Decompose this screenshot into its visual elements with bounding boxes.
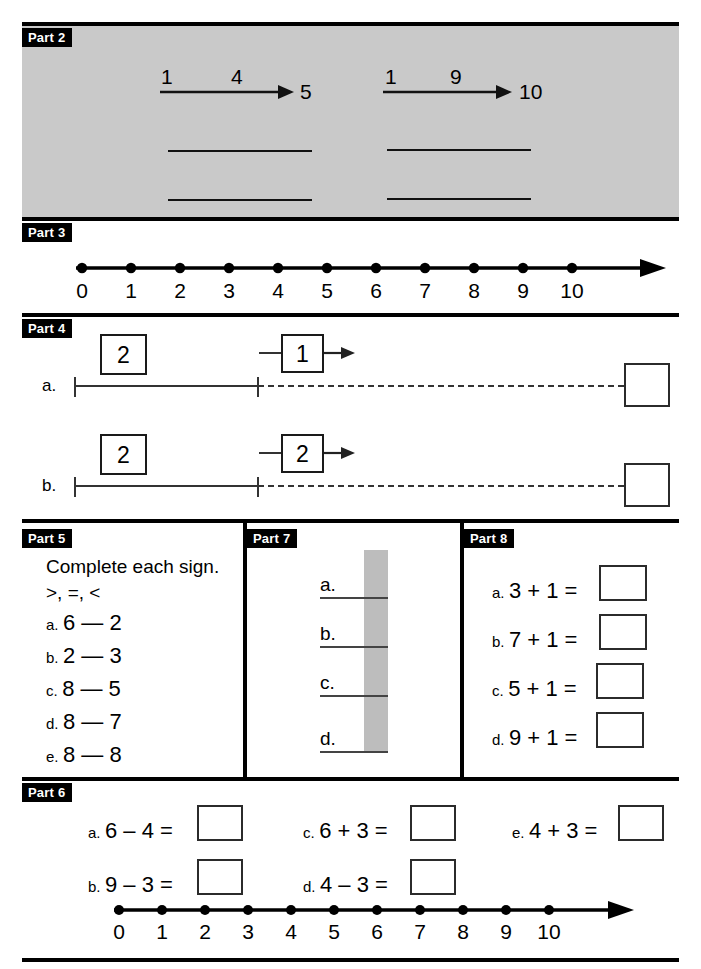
part6-item-b-answer-box[interactable] (197, 859, 243, 895)
part5-item-d-index: d. (46, 715, 59, 732)
part-tag-part8: Part 8 (464, 529, 514, 548)
part5-item-a: a. 6 — 2 (46, 610, 122, 636)
rule-part5-top (22, 519, 679, 523)
part8-item-a-expr: 3 + 1 = (509, 578, 578, 603)
part3-tick-label-1: 1 (111, 280, 151, 301)
part4-row-a-label: a. (42, 377, 56, 394)
part6-item-b-index: b. (88, 878, 101, 895)
part4-row-a-tick-start (74, 377, 76, 397)
part8-item-d: d. 9 + 1 = (492, 725, 577, 751)
part6-tick-label-4: 4 (271, 921, 311, 942)
part4-row-a-start-box[interactable]: 2 (100, 334, 147, 375)
divider-part5-part7 (243, 523, 247, 777)
rule-part6-top (22, 777, 679, 781)
part5-item-e-index: e. (46, 748, 59, 765)
part7-leader-d-index: d. (320, 729, 336, 748)
part4-row-b-start-box[interactable]: 2 (100, 434, 147, 475)
part6-tick-label-8: 8 (443, 921, 483, 942)
part5-item-e-expr[interactable]: 8 — 8 (63, 742, 122, 767)
part7-leader-c-line[interactable] (320, 695, 388, 697)
part7-leader-b-line[interactable] (320, 646, 388, 648)
part2-shaded-panel (22, 26, 679, 217)
part3-tick-label-10: 10 (552, 280, 592, 301)
part5-instruction-line1: Complete each sign. (46, 557, 219, 576)
part-tag-part4: Part 4 (22, 319, 72, 338)
part8-item-c: c. 5 + 1 = (492, 676, 577, 702)
part2-arrow2-glyph (381, 80, 516, 120)
rule-part3-top (22, 217, 679, 221)
part6-item-d: d. 4 – 3 = (303, 872, 388, 898)
divider-part7-part8 (460, 523, 464, 777)
part8-item-c-index: c. (492, 682, 504, 699)
part5-item-d: d. 8 — 7 (46, 709, 122, 735)
part4-row-b-label: b. (42, 477, 56, 494)
part4-row-a-solid-segment (74, 385, 258, 387)
part6-item-b-expr: 9 – 3 = (105, 872, 173, 897)
part6-item-d-expr: 4 – 3 = (320, 872, 388, 897)
part6-tick-label-5: 5 (314, 921, 354, 942)
part2-blank-line-r2c1[interactable] (168, 199, 312, 201)
part4-row-b-operator-arrow (324, 443, 356, 463)
part8-item-b: b. 7 + 1 = (492, 627, 577, 653)
part8-item-a-answer-box[interactable] (599, 565, 647, 601)
part-tag-part6: Part 6 (22, 783, 72, 802)
rule-part4-top (22, 313, 679, 317)
part4-row-b-answer-box[interactable] (624, 463, 670, 507)
rule-bottom (22, 958, 679, 962)
part4-row-b-tick-mid (257, 477, 259, 497)
part6-item-c: c. 6 + 3 = (303, 818, 388, 844)
part3-tick-label-2: 2 (160, 280, 200, 301)
part8-item-d-answer-box[interactable] (596, 712, 644, 748)
part5-item-d-expr[interactable]: 8 — 7 (63, 709, 122, 734)
worksheet-page: Part 2 1 4 5 1 9 10 Part 3 (0, 0, 701, 969)
part6-item-a-expr: 6 – 4 = (105, 818, 173, 843)
part4-row-a-dashed-segment (258, 385, 624, 387)
part2-arrow1-end: 5 (300, 81, 312, 102)
part5-item-a-index: a. (46, 616, 59, 633)
part2-blank-line-r1c1[interactable] (168, 150, 312, 152)
part3-tick-label-8: 8 (454, 280, 494, 301)
part7-leader-a-line[interactable] (320, 597, 388, 599)
part6-tick-label-2: 2 (185, 921, 225, 942)
part2-blank-line-r2c2[interactable] (387, 198, 531, 200)
part6-item-e-answer-box[interactable] (618, 805, 664, 841)
part8-item-b-answer-box[interactable] (599, 614, 647, 650)
part6-tick-label-6: 6 (357, 921, 397, 942)
part6-item-e-expr: 4 + 3 = (529, 818, 598, 843)
part8-item-b-expr: 7 + 1 = (509, 627, 578, 652)
part-tag-part5: Part 5 (22, 529, 72, 548)
part6-numberline: 0 1 2 3 4 5 6 7 8 9 10 (108, 898, 638, 940)
part4-row-b-operator-stem (259, 452, 281, 454)
part4-row-b-operator-box[interactable]: 2 (281, 434, 324, 473)
part4-row-b-tick-start (74, 477, 76, 497)
part6-tick-label-0: 0 (99, 921, 139, 942)
part5-item-a-expr[interactable]: 6 — 2 (63, 610, 122, 635)
part4-row-a-operator-box[interactable]: 1 (281, 334, 324, 373)
part7-leader-d-line[interactable] (320, 751, 388, 753)
part6-tick-label-9: 9 (486, 921, 526, 942)
part5-item-c-expr[interactable]: 8 — 5 (62, 676, 121, 701)
part8-item-a: a. 3 + 1 = (492, 578, 577, 604)
part6-item-c-expr: 6 + 3 = (319, 818, 388, 843)
part8-item-c-answer-box[interactable] (596, 663, 644, 699)
part6-item-a-answer-box[interactable] (197, 805, 243, 841)
part6-item-c-answer-box[interactable] (410, 805, 456, 841)
part6-item-d-answer-box[interactable] (410, 859, 456, 895)
part5-item-b-expr[interactable]: 2 — 3 (63, 643, 122, 668)
part4-row-b-dashed-segment (258, 485, 624, 487)
part6-item-a: a. 6 – 4 = (88, 818, 173, 844)
part8-item-a-index: a. (492, 584, 505, 601)
part3-numberline: 0 1 2 3 4 5 6 7 8 9 10 (70, 256, 670, 298)
part2-blank-line-r1c2[interactable] (387, 149, 531, 151)
part6-tick-label-10: 10 (529, 921, 569, 942)
part3-tick-label-9: 9 (503, 280, 543, 301)
part6-item-a-index: a. (88, 824, 101, 841)
part3-tick-label-4: 4 (258, 280, 298, 301)
part6-item-d-index: d. (303, 878, 316, 895)
part5-item-b: b. 2 — 3 (46, 643, 122, 669)
part6-item-b: b. 9 – 3 = (88, 872, 173, 898)
part5-instruction-line2: >, =, < (46, 583, 100, 602)
part4-row-a-answer-box[interactable] (624, 363, 670, 407)
part6-tick-label-3: 3 (228, 921, 268, 942)
part5-item-c: c. 8 — 5 (46, 676, 121, 702)
